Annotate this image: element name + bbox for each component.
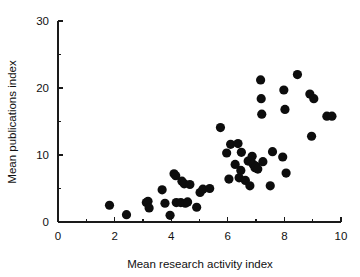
- x-tick-label: 4: [168, 230, 175, 242]
- data-point: [248, 152, 257, 161]
- data-point: [245, 181, 254, 190]
- data-point: [280, 105, 289, 114]
- data-point: [236, 166, 245, 175]
- x-tick-label: 2: [111, 230, 117, 242]
- data-point: [160, 199, 169, 208]
- scatter-plot-figure: 02468100102030 Mean research activity in…: [0, 0, 360, 277]
- data-point: [307, 132, 316, 141]
- data-point: [279, 85, 288, 94]
- data-point: [222, 148, 231, 157]
- data-point: [309, 94, 318, 103]
- data-points: [105, 70, 337, 220]
- data-point: [258, 157, 267, 166]
- data-point: [282, 168, 291, 177]
- data-point: [192, 203, 201, 212]
- data-point: [165, 211, 174, 220]
- data-point: [145, 203, 154, 212]
- data-point: [105, 201, 114, 210]
- x-tick-label: 8: [281, 230, 287, 242]
- x-axis-title: Mean research activity index: [127, 258, 273, 270]
- data-point: [224, 175, 233, 184]
- data-point: [158, 185, 167, 194]
- data-point: [216, 123, 225, 132]
- data-point: [233, 139, 242, 148]
- data-point: [205, 184, 214, 193]
- x-tick-label: 10: [335, 230, 348, 242]
- plot-canvas: 02468100102030 Mean research activity in…: [0, 0, 360, 277]
- y-tick-label: 10: [36, 149, 49, 161]
- data-point: [257, 94, 266, 103]
- data-point: [278, 152, 287, 161]
- data-point: [237, 148, 246, 157]
- y-axis-title: Mean publications index: [6, 60, 18, 184]
- data-point: [327, 112, 336, 121]
- data-point: [257, 110, 266, 119]
- x-tick-label: 6: [225, 230, 231, 242]
- data-point: [268, 147, 277, 156]
- y-tick-label: 30: [36, 15, 49, 27]
- data-point: [256, 75, 265, 84]
- data-point: [293, 70, 302, 79]
- x-tick-label: 0: [55, 230, 61, 242]
- y-tick-label: 0: [43, 216, 49, 228]
- y-tick-label: 20: [36, 82, 49, 94]
- axis-tick-labels: 02468100102030: [36, 15, 347, 242]
- data-point: [266, 181, 275, 190]
- data-point: [183, 197, 192, 206]
- data-point: [185, 180, 194, 189]
- data-point: [122, 210, 131, 219]
